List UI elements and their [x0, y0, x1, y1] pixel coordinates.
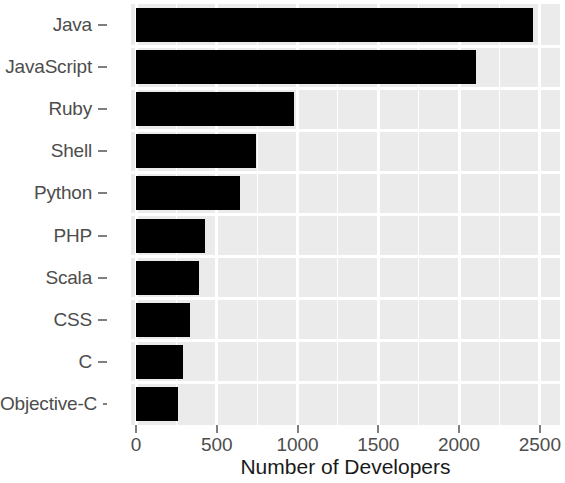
bar-band [131, 215, 560, 257]
y-axis-tick: Objective-C [0, 383, 112, 425]
bar-band [131, 341, 560, 383]
y-axis-tick-label: Scala [45, 267, 92, 289]
bar-band [131, 46, 560, 88]
bar [136, 387, 178, 421]
bar-band [131, 257, 560, 299]
y-axis-tick-mark [98, 319, 107, 321]
bar-chart: Java JavaScript Ruby Shell Python PHP Sc… [0, 0, 565, 483]
bar-band [131, 4, 560, 46]
bar-band [131, 130, 560, 172]
bar [136, 303, 190, 337]
x-axis-tick-label: 500 [201, 434, 233, 456]
y-axis-tick-mark [98, 361, 107, 363]
bar-band [131, 172, 560, 214]
y-axis-tick-mark [98, 24, 107, 26]
x-axis-tick-label: 2000 [438, 434, 480, 456]
x-axis-tick-mark [216, 425, 218, 433]
y-axis-tick-mark [98, 108, 107, 110]
y-axis-tick-label: Ruby [48, 98, 92, 120]
y-axis-tick: C [0, 341, 112, 383]
y-axis-tick: Java [0, 4, 112, 46]
bar [136, 50, 476, 84]
bar-band [131, 383, 560, 425]
x-axis-tick-label: 1000 [276, 434, 318, 456]
y-axis-tick-label: JavaScript [5, 56, 92, 78]
x-axis-tick-label: 1500 [357, 434, 399, 456]
bar [136, 345, 183, 379]
y-axis-tick: Shell [0, 130, 112, 172]
x-axis-tick-mark [377, 425, 379, 433]
x-axis: 05001000150020002500 [131, 425, 560, 458]
y-axis-tick: JavaScript [0, 46, 112, 88]
y-axis-tick-label: PHP [54, 225, 92, 247]
y-axis-tick-mark [103, 403, 107, 405]
bar [136, 219, 205, 253]
x-axis-tick-mark [135, 425, 137, 433]
bar [136, 176, 240, 210]
x-axis-title: Number of Developers [131, 455, 560, 479]
y-axis-tick: PHP [0, 214, 112, 256]
y-axis-tick-mark [98, 277, 107, 279]
bar [136, 134, 256, 168]
y-axis-tick: CSS [0, 299, 112, 341]
bar [136, 261, 199, 295]
x-axis-tick-label: 2500 [519, 434, 561, 456]
y-axis-tick-label: C [78, 351, 92, 373]
y-axis-tick-mark [98, 235, 107, 237]
x-axis-tick-label: 0 [131, 434, 142, 456]
y-axis-tick-label: Java [53, 14, 92, 36]
y-axis-tick-mark [98, 192, 107, 194]
y-axis: Java JavaScript Ruby Shell Python PHP Sc… [0, 4, 112, 425]
plot-panel [131, 4, 560, 425]
y-axis-tick-mark [98, 150, 107, 152]
bar-series [131, 4, 560, 425]
y-axis-tick-label: Objective-C [0, 393, 97, 415]
y-axis-tick: Python [0, 172, 112, 214]
y-axis-tick-label: CSS [54, 309, 92, 331]
y-axis-tick-mark [98, 66, 107, 68]
y-axis-tick: Scala [0, 257, 112, 299]
x-axis-tick-mark [539, 425, 541, 433]
y-axis-tick: Ruby [0, 88, 112, 130]
bar-band [131, 88, 560, 130]
bar [136, 92, 294, 126]
x-axis-tick-mark [458, 425, 460, 433]
bar [136, 8, 533, 42]
y-axis-tick-label: Python [34, 182, 92, 204]
x-axis-tick-mark [297, 425, 299, 433]
bar-band [131, 299, 560, 341]
y-axis-tick-label: Shell [51, 140, 92, 162]
